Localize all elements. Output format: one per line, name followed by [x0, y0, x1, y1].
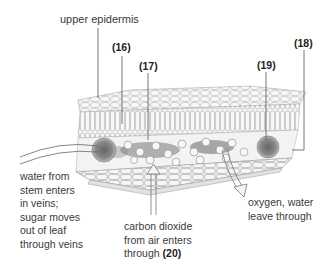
water-line-5: out of leaf — [20, 224, 83, 238]
label-water-from-stem: water from stem enters in veins; sugar m… — [20, 170, 83, 251]
water-line-3: in veins; — [20, 197, 83, 211]
water-line-6: through veins — [20, 238, 83, 252]
label-19: (19) — [257, 59, 276, 72]
co2-line-3: through (20) — [124, 247, 192, 261]
co2-through: through — [124, 247, 160, 259]
label-16: (16) — [112, 41, 131, 54]
water-line-2: stem enters — [20, 184, 83, 198]
oxygen-line-1: oxygen, water — [248, 196, 313, 210]
vein-left — [92, 138, 116, 162]
label-upper-epidermis: upper epidermis — [60, 13, 139, 26]
label-20: (20) — [163, 247, 182, 259]
water-line-4: sugar moves — [20, 211, 83, 225]
label-17: (17) — [139, 60, 158, 73]
vein-right — [257, 136, 279, 158]
label-18: (18) — [294, 37, 313, 50]
co2-line-1: carbon dioxide — [124, 220, 192, 234]
label-carbon-dioxide: carbon dioxide from air enters through (… — [124, 220, 192, 261]
water-line-1: water from — [20, 170, 83, 184]
co2-line-2: from air enters — [124, 234, 192, 248]
label-oxygen-water: oxygen, water leave through — [248, 196, 313, 223]
oxygen-line-2: leave through — [248, 210, 313, 224]
